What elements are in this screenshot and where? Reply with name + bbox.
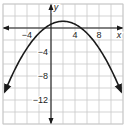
- x-axis-label: x: [116, 30, 122, 40]
- y-tick-label: −4: [38, 47, 48, 57]
- x-tick-label: 4: [72, 30, 77, 40]
- parabola-chart: −448−4−8−12xy: [0, 0, 127, 125]
- x-tick-label: 8: [96, 30, 101, 40]
- y-axis-label: y: [53, 2, 59, 12]
- y-tick-label: −12: [33, 95, 48, 105]
- y-tick-label: −8: [38, 71, 48, 81]
- x-tick-label: −4: [22, 30, 32, 40]
